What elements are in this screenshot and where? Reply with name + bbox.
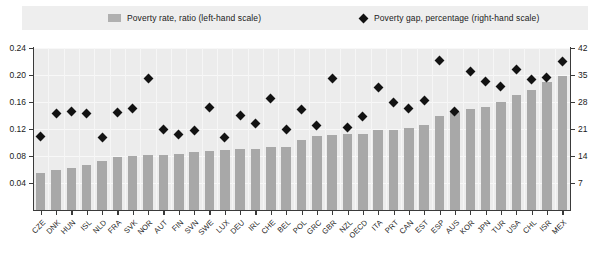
vgridline (539, 48, 540, 210)
left-axis-label-0.16: 0.16 (9, 97, 26, 107)
marker-NZL (343, 123, 353, 133)
bar-SWE (205, 151, 215, 210)
x-tick-MEX (562, 211, 563, 215)
vgridline (140, 48, 141, 210)
left-tick-mark (29, 183, 33, 184)
vgridline (248, 48, 249, 210)
vgridline (417, 48, 418, 210)
bar-IRL (251, 149, 261, 210)
x-tick-ITA (378, 211, 379, 215)
x-tick-OECD (363, 211, 364, 215)
left-axis-label-0.08: 0.08 (9, 151, 26, 161)
vgridline (386, 48, 387, 210)
vgridline (524, 48, 525, 210)
bar-PRT (389, 130, 399, 210)
x-tick-SVN (194, 211, 195, 215)
bar-MEX (558, 76, 568, 210)
marker-JPN (481, 77, 491, 87)
right-axis-label-14: 14 (578, 151, 587, 161)
bar-NOR (143, 155, 153, 210)
vgridline (555, 48, 556, 210)
x-tick-JPN (486, 211, 487, 215)
marker-PRT (389, 98, 399, 108)
right-axis-label-21: 21 (578, 124, 587, 134)
x-tick-NOR (148, 211, 149, 215)
right-axis-label-35: 35 (578, 70, 587, 80)
legend-diamond-marker-icon (359, 13, 369, 23)
marker-FIN (174, 130, 184, 140)
vgridline (110, 48, 111, 210)
bar-AUT (159, 155, 169, 210)
marker-AUT (158, 125, 168, 135)
vgridline (125, 48, 126, 210)
x-tick-GBR (332, 211, 333, 215)
bar-KOR (466, 109, 476, 210)
bar-NLD (97, 161, 107, 210)
x-tick-NZL (348, 211, 349, 215)
left-tick-mark (29, 129, 33, 130)
gridline-0.16 (33, 102, 570, 103)
marker-FRA (112, 107, 122, 117)
bar-CZE (36, 173, 46, 210)
vgridline (186, 48, 187, 210)
x-tick-EST (424, 211, 425, 215)
legend-entry-poverty-gap: Poverty gap, percentage (right-hand scal… (360, 6, 539, 30)
vgridline (340, 48, 341, 210)
gridline-0.20 (33, 75, 570, 76)
vgridline (355, 48, 356, 210)
legend-bar-label: Poverty rate, ratio (left-hand scale) (127, 13, 261, 23)
x-tick-BEL (286, 211, 287, 215)
bar-CHL (527, 90, 537, 210)
x-tick-ISR (547, 211, 548, 215)
x-tick-ISL (87, 211, 88, 215)
legend-entry-poverty-rate: Poverty rate, ratio (left-hand scale) (108, 6, 261, 30)
poverty-chart-figure: Poverty rate, ratio (left-hand scale) Po… (0, 0, 604, 264)
bar-ISL (82, 165, 92, 210)
marker-IRL (251, 118, 261, 128)
vgridline (509, 48, 510, 210)
vgridline (463, 48, 464, 210)
bar-AUS (450, 112, 460, 210)
bar-SVN (189, 152, 199, 210)
right-tick-mark (571, 75, 575, 76)
marker-CHL (527, 75, 537, 85)
marker-OECD (358, 111, 368, 121)
vgridline (48, 48, 49, 210)
bar-ESP (435, 116, 445, 211)
x-tick-TUR (501, 211, 502, 215)
x-tick-POL (302, 211, 303, 215)
vgridline (309, 48, 310, 210)
marker-POL (297, 105, 307, 115)
x-tick-CAN (409, 211, 410, 215)
x-tick-CHL (532, 211, 533, 215)
marker-ITA (373, 82, 383, 92)
right-axis-label-7: 7 (578, 178, 583, 188)
marker-BEL (281, 125, 291, 135)
left-axis-label-0.12: 0.12 (9, 124, 26, 134)
x-tick-PRT (394, 211, 395, 215)
bar-ISR (542, 82, 552, 210)
left-axis-label-0.04: 0.04 (9, 178, 26, 188)
left-axis-label-0.24: 0.24 (9, 43, 26, 53)
marker-DEU (235, 110, 245, 120)
marker-ISL (82, 109, 92, 119)
vgridline (263, 48, 264, 210)
vgridline (478, 48, 479, 210)
x-tick-SWE (209, 211, 210, 215)
vgridline (156, 48, 157, 210)
vgridline (171, 48, 172, 210)
x-tick-NLD (102, 211, 103, 215)
vgridline (94, 48, 95, 210)
right-axis-label-28: 28 (578, 97, 587, 107)
bar-POL (297, 140, 307, 210)
right-tick-mark (571, 48, 575, 49)
legend-bar-swatch-icon (108, 14, 121, 22)
vgridline (371, 48, 372, 210)
x-tick-AUT (163, 211, 164, 215)
marker-USA (511, 64, 521, 74)
bar-CHE (266, 147, 276, 210)
marker-CAN (404, 103, 414, 113)
bar-OECD (358, 134, 368, 210)
bar-TUR (496, 102, 506, 210)
x-tick-CZE (41, 211, 42, 215)
